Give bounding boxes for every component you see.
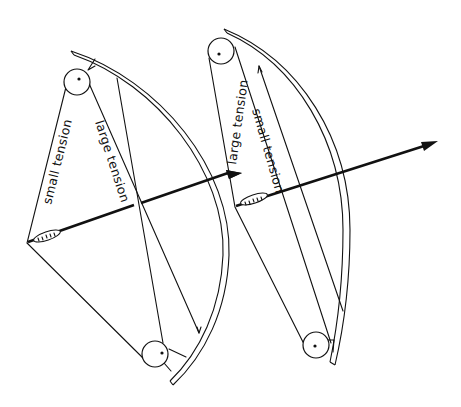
- left-label-small-tension: small tension: [39, 117, 75, 205]
- right-label-large-tension: large tension: [224, 79, 251, 166]
- right-arrow-head: [421, 141, 438, 151]
- compound-bow-diagram: small tension large tension large tensio…: [0, 0, 461, 407]
- right-top-cam: [208, 38, 234, 64]
- right-arrow-fletching: [239, 191, 268, 208]
- right-bow: large tension small tension: [208, 29, 438, 365]
- left-arrow-fletching: [32, 227, 61, 244]
- left-bowstring: [27, 87, 148, 363]
- right-cable-small-tension: [235, 47, 331, 343]
- left-bow: small tension large tension: [27, 51, 242, 385]
- right-bow-limb-outer: [224, 29, 350, 365]
- right-label-small-tension: small tension: [249, 107, 287, 195]
- right-bowstring: [209, 58, 307, 350]
- left-arrow-tip-overlap: [226, 170, 242, 179]
- left-bottom-cam: [142, 341, 168, 367]
- left-top-cam: [64, 69, 90, 95]
- left-cable-2: [117, 78, 163, 343]
